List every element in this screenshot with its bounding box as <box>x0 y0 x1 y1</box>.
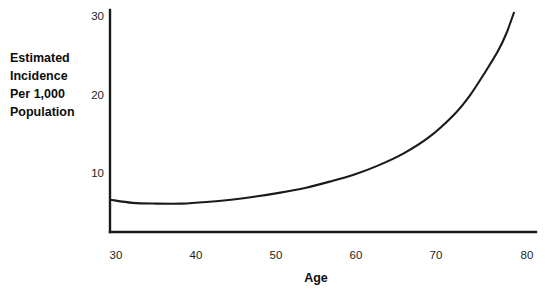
x-axis-title: Age <box>304 271 328 285</box>
y-axis-title-line-2: Incidence <box>10 69 68 83</box>
chart-container: 30 20 10 30 40 50 60 70 80 Estimated Inc… <box>0 0 546 292</box>
x-tick-label-70: 70 <box>430 249 443 261</box>
y-axis-title-line-4: Population <box>10 105 75 119</box>
x-tick-label-30: 30 <box>110 249 123 261</box>
y-axis-title-line-3: Per 1,000 <box>10 87 65 101</box>
x-tick-label-50: 50 <box>270 249 283 261</box>
x-tick-label-80: 80 <box>521 249 534 261</box>
y-tick-label-20: 20 <box>91 89 104 101</box>
y-axis-title-line-1: Estimated <box>10 51 70 65</box>
incidence-vs-age-line-chart: 30 20 10 30 40 50 60 70 80 Estimated Inc… <box>0 0 546 292</box>
x-tick-label-40: 40 <box>190 249 203 261</box>
x-tick-label-60: 60 <box>350 249 363 261</box>
y-tick-label-30: 30 <box>91 10 104 22</box>
incidence-curve <box>110 13 514 204</box>
y-tick-label-10: 10 <box>91 167 104 179</box>
